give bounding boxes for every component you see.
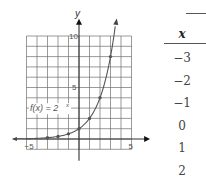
value-table: x −3−2−10123 [150,0,206,181]
curve-label: f(x) = 2 [30,103,58,113]
data-point [98,96,101,99]
table-row-x: 1 [167,141,197,155]
y-axis-arrow-icon [76,19,82,25]
table-row-x: −3 [167,51,197,65]
table-top-rule [186,13,206,14]
table-row-x: 0 [167,119,197,133]
data-point [56,135,59,138]
curve-arrow-icon [113,18,118,25]
y-axis-label: y [74,8,81,19]
table-header-x: x [167,27,197,41]
y-tick-label-5: 5 [72,83,77,92]
data-point [46,136,49,139]
y-tick-label-10: 10 [69,32,78,41]
data-point [67,132,70,135]
table-row-x: −2 [167,74,197,88]
x-tick-label-5: 5 [129,142,134,151]
data-point [88,117,91,120]
table-row-x: 2 [167,164,197,178]
x-tick-label-neg5: −5 [25,142,35,151]
table-header-rule [164,43,206,44]
table-row-x: −1 [167,96,197,110]
data-point [77,127,80,130]
exponential-graph: −55510xyf(x) = 2x [0,0,150,181]
data-point [109,55,112,58]
